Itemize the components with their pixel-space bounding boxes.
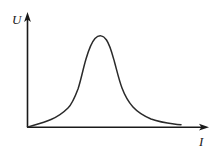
plot-area: U I — [0, 0, 221, 153]
resonance-curve-path — [28, 36, 182, 127]
resonance-curve-figure: U I — [0, 0, 221, 153]
y-axis-label: U — [12, 12, 23, 27]
y-axis-group — [24, 12, 31, 127]
x-axis-label: I — [198, 134, 204, 149]
